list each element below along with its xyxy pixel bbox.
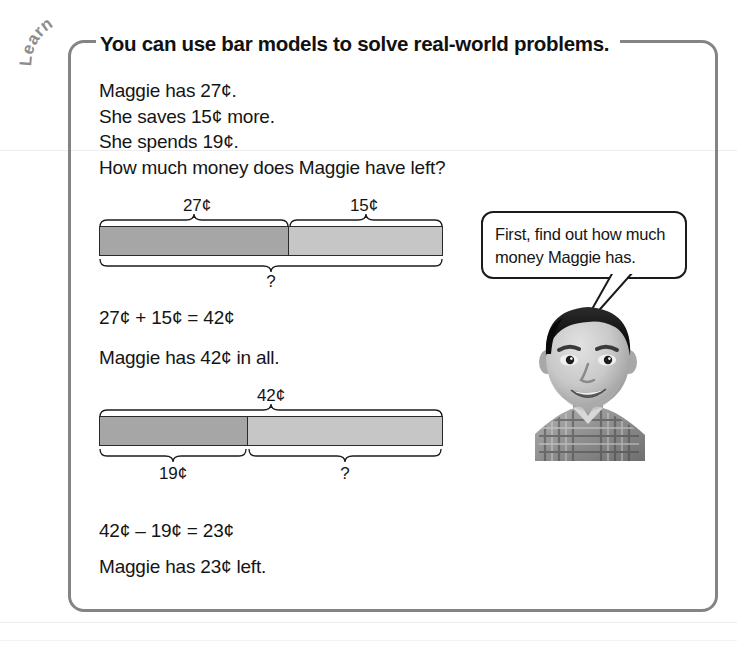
bar-model-subtraction: 42¢ 19¢ ? bbox=[99, 386, 443, 491]
equation-subtraction: 42¢ – 19¢ = 23¢ bbox=[99, 520, 234, 542]
learn-badge-label: Learn bbox=[18, 14, 57, 67]
bar-model-addition: 27¢ 15¢ ? bbox=[99, 196, 443, 296]
bar2-label-whole: 42¢ bbox=[257, 386, 285, 406]
equation-addition: 27¢ + 15¢ = 42¢ bbox=[99, 307, 234, 329]
page-title: You can use bar models to solve real-wor… bbox=[100, 32, 609, 56]
speech-bubble-text: First, find out how much money Maggie ha… bbox=[495, 223, 675, 269]
bar2-brace-bottom-left bbox=[99, 448, 248, 460]
student-photo bbox=[505, 296, 671, 461]
bar1-label-part-right: 15¢ bbox=[350, 196, 378, 216]
speech-bubble-line-2: money Maggie has. bbox=[495, 246, 675, 269]
sentence-total: Maggie has 42¢ in all. bbox=[99, 347, 279, 369]
bar2-label-part-left: 19¢ bbox=[159, 464, 187, 484]
problem-statement: Maggie has 27¢. She saves 15¢ more. She … bbox=[99, 78, 445, 180]
problem-line-4: How much money does Maggie have left? bbox=[99, 155, 445, 181]
bar2-bar bbox=[99, 416, 443, 446]
speech-bubble-line-1: First, find out how much bbox=[495, 223, 675, 246]
bar2-brace-bottom-right bbox=[248, 448, 443, 460]
sentence-answer: Maggie has 23¢ left. bbox=[99, 556, 266, 578]
bar2-segment-unknown bbox=[248, 417, 442, 445]
speech-bubble: First, find out how much money Maggie ha… bbox=[481, 211, 687, 279]
problem-line-1: Maggie has 27¢. bbox=[99, 78, 445, 104]
bar2-segment-19 bbox=[100, 417, 248, 445]
bar2-label-part-right: ? bbox=[340, 464, 349, 484]
bar1-brace-bottom-whole bbox=[99, 258, 443, 270]
scan-artifact-line bbox=[0, 640, 737, 641]
bar1-segment-27 bbox=[100, 227, 289, 255]
problem-line-2: She saves 15¢ more. bbox=[99, 104, 445, 130]
scan-artifact-line bbox=[0, 622, 737, 623]
bar1-label-whole: ? bbox=[266, 272, 275, 292]
bar1-label-part-left: 27¢ bbox=[183, 196, 211, 216]
bar1-bar bbox=[99, 226, 443, 256]
bar1-segment-15 bbox=[289, 227, 442, 255]
problem-line-3: She spends 19¢. bbox=[99, 129, 445, 155]
